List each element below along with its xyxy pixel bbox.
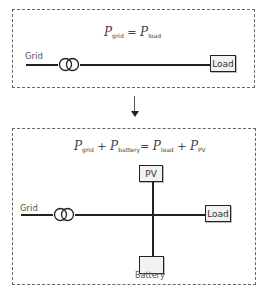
top-load-label: Load [212, 59, 234, 69]
eq-symbol: P [153, 139, 161, 153]
eq-subscript: load [148, 32, 161, 39]
eq-operator: = [127, 26, 136, 39]
down-arrow-icon [131, 111, 139, 117]
eq-plus: + [177, 140, 186, 153]
bottom-equation: Pgrid + Pbattery= Pload + PPV [74, 139, 206, 153]
bottom-bus-line [75, 214, 206, 216]
eq-subscript: PV [198, 146, 206, 153]
eq-subscript: battery [118, 146, 140, 153]
eq-operator: = [140, 140, 149, 153]
bottom-load-box: Load [205, 205, 231, 222]
eq-subscript: load [161, 146, 174, 153]
eq-symbol: P [140, 25, 148, 39]
bottom-grid-line-left [21, 214, 53, 216]
top-equation: Pgrid = Pload [104, 25, 161, 39]
eq-subscript: grid [82, 146, 94, 153]
eq-symbol: P [104, 25, 112, 39]
bottom-grid-label: Grid [20, 203, 38, 213]
battery-feeder-line [152, 214, 154, 257]
battery-label: Battery [135, 271, 165, 280]
pv-label: PV [145, 169, 157, 179]
pv-box: PV [139, 165, 163, 182]
eq-symbol: P [74, 139, 82, 153]
eq-symbol: P [110, 139, 118, 153]
eq-symbol: P [190, 139, 198, 153]
bottom-load-label: Load [207, 209, 229, 219]
eq-plus: + [97, 140, 106, 153]
top-load-box: Load [210, 55, 236, 72]
top-bus-line [80, 64, 210, 66]
top-grid-label: Grid [25, 51, 43, 61]
top-grid-line-left [26, 64, 58, 66]
eq-subscript: grid [112, 32, 124, 39]
transformer-icon [57, 57, 81, 72]
top-panel-before [12, 9, 255, 88]
transformer-icon [52, 207, 76, 222]
